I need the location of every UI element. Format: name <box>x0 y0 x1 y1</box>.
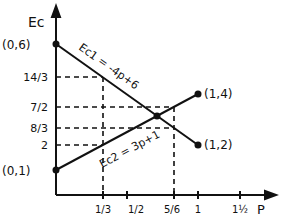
point-1-4 <box>195 91 202 98</box>
axes <box>52 6 276 199</box>
point-0-6 <box>53 41 60 48</box>
x-axis-arrow-icon <box>265 191 276 199</box>
x-tick-label: 1½ <box>232 204 248 215</box>
y-tick-label: 2 <box>41 139 48 152</box>
line-ec1 <box>56 44 198 145</box>
y-tick-label: 14/3 <box>23 71 48 84</box>
point-label-0-6: (0,6) <box>2 38 30 52</box>
line-ec2 <box>56 94 198 170</box>
x-axis-label: P <box>257 202 265 217</box>
x-tick-label: 1 <box>195 204 201 215</box>
y-tick-label: 7/2 <box>30 101 48 114</box>
y-axis-arrow-icon <box>52 6 60 17</box>
payoff-diagram: Ec P 14/3 7/2 8/3 2 1/3 1/2 5/6 1 1½ (0,… <box>0 0 288 223</box>
point-label-1-4: (1,4) <box>204 87 232 101</box>
y-axis-label: Ec <box>28 14 45 30</box>
x-tick-label: 1/2 <box>128 204 144 215</box>
y-tick-label: 8/3 <box>30 122 48 135</box>
point-1-2 <box>195 142 202 149</box>
equation-label-ec2: Ec2 = 3p+1 <box>97 128 162 171</box>
x-tick-label: 1/3 <box>95 204 111 215</box>
x-tick-label: 5/6 <box>164 204 180 215</box>
point-intersection <box>154 113 161 120</box>
point-label-1-2: (1,2) <box>204 138 232 152</box>
point-label-0-1: (0,1) <box>2 164 30 178</box>
point-0-1 <box>53 167 60 174</box>
